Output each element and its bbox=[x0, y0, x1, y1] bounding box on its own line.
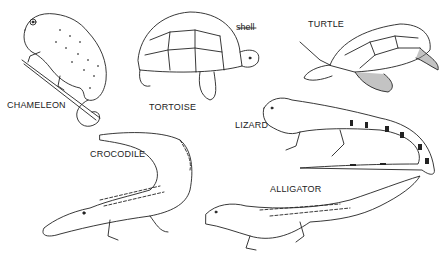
label-turtle: TURTLE bbox=[308, 19, 344, 29]
label-tortoise: TORTOISE bbox=[149, 102, 196, 112]
turtle-drawing bbox=[300, 24, 438, 92]
lizard-drawing bbox=[263, 98, 434, 174]
reptile-illustration: CHAMELEON TORTOISE shell TURTLE LIZARD C… bbox=[0, 0, 443, 259]
label-alligator: ALLIGATOR bbox=[270, 184, 322, 194]
callout-shell: shell bbox=[236, 22, 255, 32]
label-lizard: LIZARD bbox=[235, 120, 268, 130]
label-chameleon: CHAMELEON bbox=[7, 100, 66, 110]
label-crocodile: CROCODILE bbox=[90, 149, 145, 159]
